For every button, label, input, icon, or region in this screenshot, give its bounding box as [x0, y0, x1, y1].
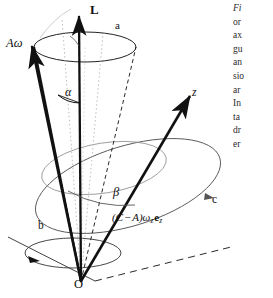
caption-line: In	[233, 97, 273, 111]
construction-lines	[62, 18, 103, 281]
expr-minus: −	[123, 211, 132, 223]
dotted-generator-b	[81, 34, 103, 281]
expr-open: (C	[112, 211, 123, 223]
label-angle-beta: β	[113, 186, 119, 199]
base-rotation-arrowhead	[28, 256, 40, 263]
aux-arc-top	[40, 9, 71, 38]
label-A-omega: Aω	[6, 37, 22, 50]
axis-a-marker	[70, 36, 79, 46]
a-curve	[70, 36, 79, 46]
caption-line: er	[233, 138, 273, 152]
large-tilted-ellipse	[24, 120, 231, 253]
arc-beta	[68, 191, 135, 206]
caption-line: ax	[233, 29, 273, 43]
caption-line: dr	[233, 124, 273, 138]
angle-beta-arc	[68, 191, 135, 206]
figure-page: L Aω a α β b c z O (C−A)ωzez Fi or ax gu…	[0, 0, 273, 298]
angular-velocity-vector	[32, 46, 81, 281]
expr-close: )ω	[139, 211, 150, 223]
angular-momentum-vector	[79, 16, 81, 281]
expr-A: A	[132, 211, 139, 223]
ground-plane	[8, 237, 231, 281]
diagram-svg	[0, 0, 232, 298]
cone-body	[34, 47, 136, 281]
z-axis-vector	[81, 96, 190, 281]
caption-line: or	[233, 16, 273, 30]
label-origin-O: O	[74, 278, 83, 291]
L-arrow	[79, 16, 81, 281]
diagram-canvas	[0, 0, 232, 298]
label-axis-z: z	[192, 87, 196, 99]
ellipse-outer	[24, 120, 231, 253]
z-arrow	[81, 96, 190, 281]
caption-line: Fi	[233, 2, 273, 16]
caption-line: ta	[233, 111, 273, 125]
caption-line: ar	[233, 84, 273, 98]
expr-sub-z2: z	[159, 216, 162, 225]
label-vector-expression: (C−A)ωzez	[112, 212, 162, 225]
label-axis-b: b	[38, 220, 44, 232]
figure-caption-clipped: Fi or ax gu an sio ar In ta dr er	[233, 2, 273, 298]
label-L: L	[90, 3, 99, 16]
caption-line: sio	[233, 70, 273, 84]
label-axis-c: c	[212, 194, 217, 206]
plane-edge-right-dashed	[95, 247, 231, 281]
cone-side-right-dashed	[81, 47, 136, 281]
Aomega-arrow	[32, 46, 81, 281]
arc-top-faint	[40, 9, 71, 38]
caption-line: gu	[233, 43, 273, 57]
caption-line: an	[233, 56, 273, 70]
label-angle-alpha: α	[65, 86, 71, 98]
label-axis-a: a	[115, 20, 120, 31]
